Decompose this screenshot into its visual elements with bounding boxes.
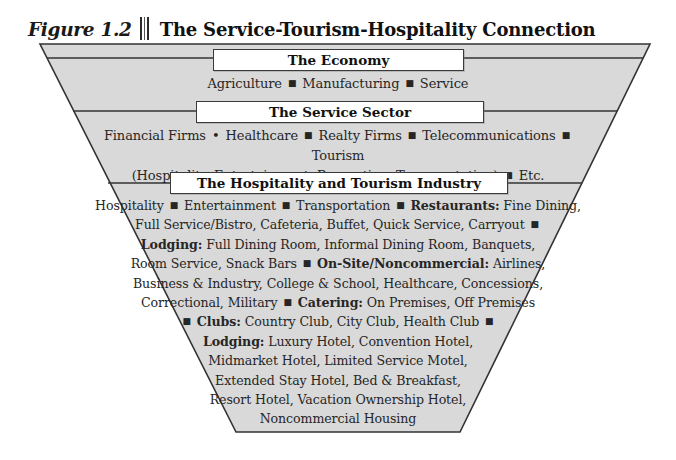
tier-line: Lodging: Full Dining Room, Informal Dini… bbox=[60, 235, 616, 254]
tier-line: Correctional, Military ■ Catering: On Pr… bbox=[60, 293, 616, 312]
tier-line: Room Service, Snack Bars ■ On-Site/Nonco… bbox=[60, 254, 616, 273]
tier-line: Lodging: Luxury Hotel, Convention Hotel, bbox=[60, 332, 616, 351]
tier-line: Agriculture ■ Manufacturing ■ Service bbox=[150, 74, 526, 94]
figure-container: Figure 1.2 The Service-Tourism-Hospitali… bbox=[0, 0, 676, 460]
tier-line: Extended Stay Hotel, Bed & Breakfast, bbox=[60, 371, 616, 390]
tier-line: ■ Clubs: Country Club, City Club, Health… bbox=[60, 312, 616, 331]
tier-box-hospitality-tourism-industry[interactable]: The Hospitality and Tourism Industry bbox=[170, 172, 508, 194]
tier-line: Noncommercial Housing bbox=[60, 409, 616, 428]
tier-line: Full Service/Bistro, Cafeteria, Buffet, … bbox=[60, 215, 616, 234]
tier-content-economy: Agriculture ■ Manufacturing ■ Service bbox=[150, 74, 526, 94]
tier-line: Business & Industry, College & School, H… bbox=[60, 274, 616, 293]
tier-box-service-sector[interactable]: The Service Sector bbox=[196, 101, 484, 123]
tier-box-economy[interactable]: The Economy bbox=[213, 49, 464, 71]
tier-line: Financial Firms • Healthcare ■ Realty Fi… bbox=[78, 126, 598, 166]
tier-content-hospitality-tourism: Hospitality ■ Entertainment ■ Transporta… bbox=[60, 196, 616, 429]
tier-line: Resort Hotel, Vacation Ownership Hotel, bbox=[60, 390, 616, 409]
tier-line: Midmarket Hotel, Limited Service Motel, bbox=[60, 351, 616, 370]
tier-line: Hospitality ■ Entertainment ■ Transporta… bbox=[60, 196, 616, 215]
